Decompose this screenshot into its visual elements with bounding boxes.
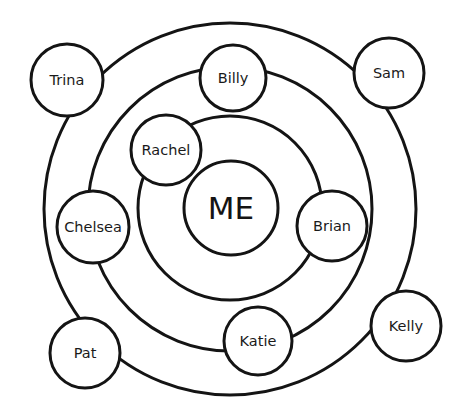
center-node: ME	[184, 161, 278, 255]
node-pat: Pat	[50, 318, 120, 388]
node-label: Rachel	[142, 142, 191, 158]
node-chelsea: Chelsea	[57, 191, 129, 263]
node-brian: Brian	[297, 191, 367, 261]
node-label: Sam	[373, 65, 405, 81]
node-rachel: Rachel	[131, 115, 201, 185]
center-label: ME	[208, 190, 254, 226]
node-label: Brian	[313, 218, 351, 234]
node-sam: Sam	[354, 38, 424, 108]
node-kelly: Kelly	[371, 291, 441, 361]
node-label: Kelly	[389, 318, 424, 334]
node-label: Katie	[240, 333, 277, 349]
node-label: Chelsea	[64, 219, 122, 235]
node-label: Pat	[74, 345, 97, 361]
node-katie: Katie	[224, 307, 292, 375]
node-label: Billy	[218, 70, 249, 86]
node-billy: Billy	[200, 45, 266, 111]
node-label: Trina	[49, 72, 85, 88]
node-trina: Trina	[31, 44, 103, 116]
relationship-circles-diagram: ME Rachel Brian Billy Chelsea Katie Trin…	[0, 0, 471, 418]
